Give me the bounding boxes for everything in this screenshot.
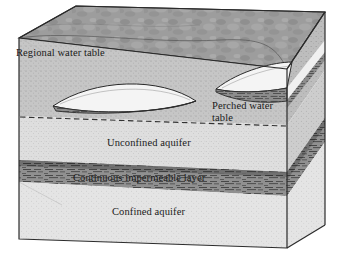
diagram-canvas — [0, 0, 339, 259]
label-continuous-impermeable-layer: Continuous impermeable layer — [73, 172, 205, 184]
aquifer-block-diagram: Regional water table Perched watertable … — [0, 0, 339, 259]
label-perched-water-table: Perched watertable — [212, 100, 273, 123]
label-confined-aquifer: Confined aquifer — [112, 206, 185, 218]
label-perched-water-table-line2: table — [212, 112, 233, 123]
label-regional-water-table: Regional water table — [16, 47, 105, 59]
label-unconfined-aquifer: Unconfined aquifer — [107, 137, 191, 149]
label-perched-water-table-line1: Perched water — [212, 100, 273, 111]
